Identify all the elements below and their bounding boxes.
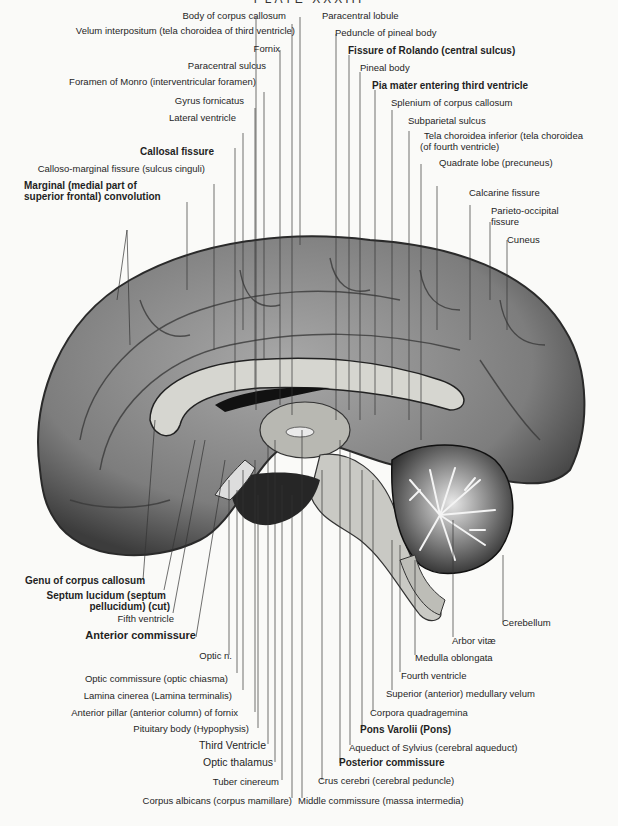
- label-foramen-of-monro: Foramen of Monro (interventricular foram…: [69, 76, 256, 87]
- label-gyrus-fornicatus: Gyrus fornicatus: [175, 95, 244, 106]
- label-arbor-vitae: Arbor vitæ: [452, 635, 496, 646]
- label-corpora-quadragemina: Corpora quadragemina: [370, 707, 468, 718]
- label-body-of-corpus-callosum: Body of corpus callosum: [183, 10, 287, 21]
- label-callosal-fissure: Callosal fissure: [140, 146, 214, 157]
- label-subparietal-sulcus: Subparietal sulcus: [408, 115, 486, 126]
- brain-sagittal-illustration: [0, 0, 618, 826]
- label-lamina-cinerea: Lamina cinerea (Lamina terminalis): [84, 690, 232, 701]
- label-fifth-ventricle: Fifth ventricle: [118, 613, 175, 624]
- label-third-ventricle: Third Ventricle: [199, 740, 266, 751]
- label-tela-choroidea-inferior-1: Tela choroidea inferior (tela choroidea: [424, 130, 583, 141]
- label-fourth-ventricle: Fourth ventricle: [401, 670, 466, 681]
- label-superior-medullary-velum: Superior (anterior) medullary velum: [386, 688, 535, 699]
- label-medulla-oblongata: Medulla oblongata: [415, 652, 493, 663]
- label-posterior-commissure: Posterior commissure: [339, 757, 445, 768]
- label-septum-lucidum-1: Septum lucidum (septum: [47, 590, 166, 601]
- label-calcarine-fissure: Calcarine fissure: [469, 187, 540, 198]
- label-aqueduct-of-sylvius: Aqueduct of Sylvius (cerebral aqueduct): [349, 742, 517, 753]
- label-fissure-of-rolando: Fissure of Rolando (central sulcus): [348, 45, 515, 56]
- label-crus-cerebri: Crus cerebri (cerebral peduncle): [318, 775, 454, 786]
- label-fornix: Fornix: [254, 43, 280, 54]
- label-optic-thalamus: Optic thalamus: [203, 757, 273, 768]
- label-pineal-body: Pineal body: [360, 62, 410, 73]
- label-parieto-occipital-1: Parieto-occipital: [491, 205, 559, 216]
- label-anterior-pillar-of-fornix: Anterior pillar (anterior column) of for…: [71, 707, 238, 718]
- label-pia-mater: Pia mater entering third ventricle: [372, 80, 528, 91]
- label-peduncle-of-pineal-body: Peduncle of pineal body: [335, 27, 436, 38]
- label-optic-nerve: Optic n.: [199, 650, 232, 661]
- label-parieto-occipital-2: fissure: [491, 216, 519, 227]
- label-tuber-cinereum: Tuber cinereum: [213, 776, 279, 787]
- label-cuneus: Cuneus: [507, 234, 540, 245]
- label-lateral-ventricle: Lateral ventricle: [169, 112, 236, 123]
- label-marginal-convolution-2: superior frontal) convolution: [24, 191, 161, 202]
- label-anterior-commissure: Anterior commissure: [85, 630, 196, 641]
- label-septum-lucidum-2: pellucidum) (cut): [89, 601, 170, 612]
- label-splenium: Splenium of corpus callosum: [391, 97, 512, 108]
- label-optic-commissure: Optic commissure (optic chiasma): [85, 673, 228, 684]
- label-marginal-convolution-1: Marginal (medial part of: [24, 180, 137, 191]
- label-middle-commissure: Middle commissure (massa intermedia): [298, 795, 464, 806]
- label-paracentral-sulcus: Paracentral sulcus: [188, 60, 266, 71]
- label-velum-interpositum: Velum interpositum (tela choroidea of th…: [76, 25, 295, 36]
- label-quadrate-lobe: Quadrate lobe (precuneus): [439, 157, 553, 168]
- label-pons-varolii: Pons Varolii (Pons): [360, 724, 451, 735]
- label-calloso-marginal-fissure: Calloso-marginal fissure (sulcus cinguli…: [38, 163, 205, 174]
- label-pituitary-body: Pituitary body (Hypophysis): [133, 723, 249, 734]
- label-paracentral-lobule: Paracentral lobule: [322, 10, 399, 21]
- label-genu-of-corpus-callosum: Genu of corpus callosum: [25, 575, 145, 586]
- label-corpus-albicans: Corpus albicans (corpus mamillare): [143, 795, 292, 806]
- label-tela-choroidea-inferior-2: (of fourth ventricle): [420, 141, 499, 152]
- label-cerebellum: Cerebellum: [502, 617, 551, 628]
